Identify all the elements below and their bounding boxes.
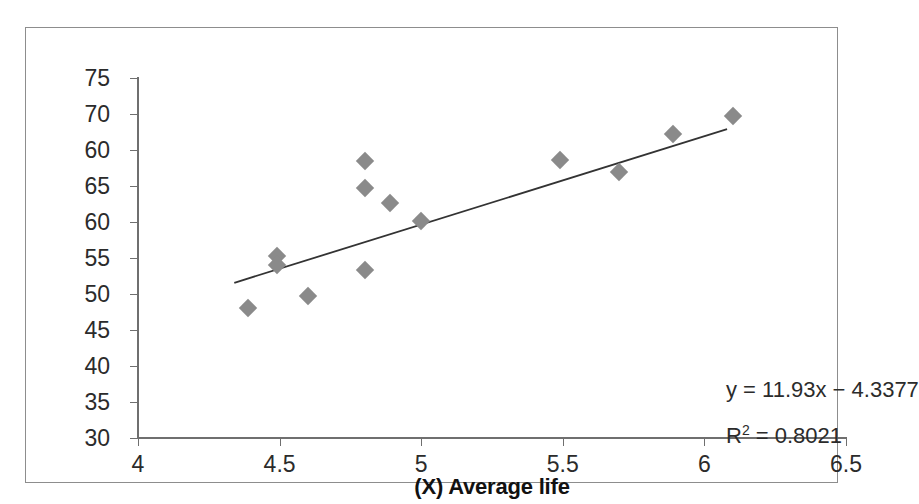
x-axis-tick-mark <box>138 438 139 446</box>
x-axis-tick-mark <box>421 438 422 446</box>
y-axis-tick-label: 55 <box>48 245 110 272</box>
r-squared-letter: R <box>726 423 742 448</box>
y-axis-tick-mark <box>130 150 138 151</box>
y-axis-tick-mark <box>130 366 138 367</box>
y-axis-tick-label: 30 <box>48 425 110 452</box>
x-axis-tick-mark <box>280 438 281 446</box>
y-axis-tick-label: 65 <box>48 173 110 200</box>
x-axis-title: (X) Average life <box>138 474 846 500</box>
r-squared-value: = 0.8021 <box>756 423 842 448</box>
plot-area: 7570606560555045403530 44.555.566.5 y = … <box>138 78 846 438</box>
x-axis-tick-label: 4 <box>132 451 145 478</box>
regression-equation: y = 11.93x − 4.3377 <box>726 370 919 410</box>
x-axis-tick-mark <box>563 438 564 446</box>
y-axis-tick-label: 60 <box>48 137 110 164</box>
y-axis-tick-label: 75 <box>48 65 110 92</box>
y-axis-tick-mark <box>130 438 138 439</box>
y-axis-tick-label: 35 <box>48 389 110 416</box>
y-axis-tick-mark <box>130 294 138 295</box>
y-axis-tick-mark <box>130 258 138 259</box>
x-axis-tick-label: 6 <box>698 451 711 478</box>
y-axis-tick-mark <box>130 78 138 79</box>
r-squared-annotation: R2 = 0.8021 <box>726 410 919 456</box>
x-axis-tick-label: 4.5 <box>264 451 296 478</box>
y-axis-tick-mark <box>130 222 138 223</box>
y-axis-tick-mark <box>130 330 138 331</box>
y-axis-tick-label: 50 <box>48 281 110 308</box>
x-axis-tick-label: 5 <box>415 451 428 478</box>
x-axis-tick-label: 5.5 <box>547 451 579 478</box>
y-axis-tick-label: 40 <box>48 353 110 380</box>
r-squared-exponent: 2 <box>742 422 750 438</box>
y-axis-tick-mark <box>130 402 138 403</box>
y-axis-tick-mark <box>130 186 138 187</box>
x-axis-tick-mark <box>704 438 705 446</box>
regression-annotations: y = 11.93x − 4.3377 R2 = 0.8021 <box>726 370 919 456</box>
y-axis-tick-label: 60 <box>48 209 110 236</box>
chart-figure-frame: (Y) Spread bps (X) Average life 75706065… <box>25 27 838 483</box>
y-axis-tick-label: 45 <box>48 317 110 344</box>
y-axis-tick-mark <box>130 114 138 115</box>
y-axis-tick-label: 70 <box>48 101 110 128</box>
